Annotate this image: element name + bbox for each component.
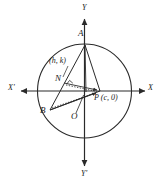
segment-a-center bbox=[85, 45, 86, 92]
geometry-figure: A B N (h, k) P (c, 0) O X' X Y Y' bbox=[0, 0, 161, 184]
point-label-n: N bbox=[55, 74, 61, 83]
point-label-p: P (c, 0) bbox=[94, 94, 118, 102]
right-angle-marker-n bbox=[67, 80, 73, 84]
segment-ap bbox=[85, 45, 100, 91]
segment-b-to-p-arrow bbox=[50, 93, 96, 110]
axis-label-y-positive: Y bbox=[82, 4, 86, 12]
axis-label-y-negative: Y' bbox=[81, 170, 87, 178]
point-label-a: A bbox=[78, 29, 84, 38]
point-label-b: B bbox=[40, 106, 46, 115]
origin-label: O bbox=[71, 112, 78, 121]
axis-label-x-positive: X bbox=[148, 84, 153, 92]
hk-leader-line bbox=[63, 66, 68, 77]
point-label-hk: (h, k) bbox=[49, 57, 66, 65]
segment-np bbox=[64, 83, 97, 90]
axis-label-x-negative: X' bbox=[8, 84, 15, 92]
